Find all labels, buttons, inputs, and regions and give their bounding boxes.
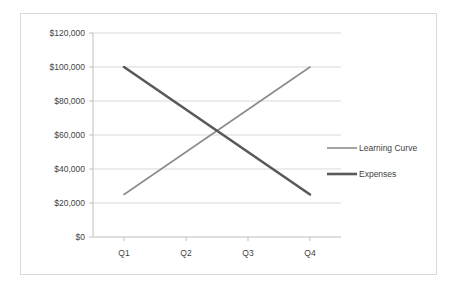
x-axis-label-q4: Q4 [304, 248, 316, 258]
y-axis-label-20000: $20,000 [54, 198, 85, 208]
y-axis-label-40000: $40,000 [54, 164, 85, 174]
y-axis-label-0: $0 [76, 232, 86, 242]
y-axis-ticks [89, 33, 93, 237]
y-axis-label-100000: $100,000 [50, 62, 86, 72]
chart-legend: Learning Curve Expenses [327, 143, 417, 179]
x-axis-label-q3: Q3 [242, 248, 254, 258]
legend-label-learning-curve: Learning Curve [359, 143, 417, 153]
x-axis-ticks [124, 237, 310, 241]
data-series-layer [124, 67, 310, 195]
chart-container: $120,000 $100,000 $80,000 $60,000 $40,00… [20, 13, 437, 275]
x-axis-labels: Q1 Q2 Q3 Q4 [118, 248, 316, 258]
gridlines [93, 33, 341, 237]
y-axis-label-80000: $80,000 [54, 96, 85, 106]
legend-label-expenses: Expenses [359, 169, 396, 179]
y-axis-labels: $120,000 $100,000 $80,000 $60,000 $40,00… [50, 28, 86, 242]
y-axis-label-60000: $60,000 [54, 130, 85, 140]
x-axis-label-q1: Q1 [118, 248, 130, 258]
line-chart-plot: $120,000 $100,000 $80,000 $60,000 $40,00… [21, 14, 436, 274]
x-axis-label-q2: Q2 [180, 248, 192, 258]
y-axis-label-120000: $120,000 [50, 28, 86, 38]
